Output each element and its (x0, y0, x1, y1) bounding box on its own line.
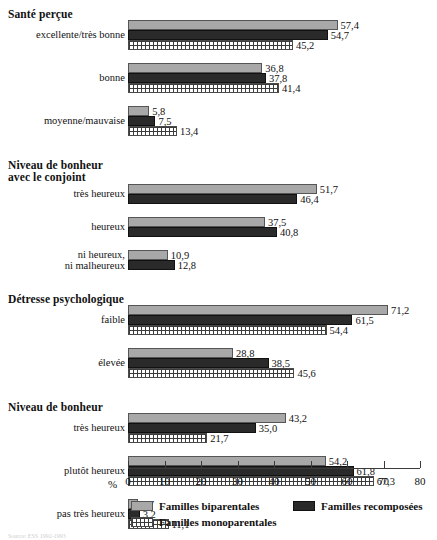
bar-value-label: 45,6 (297, 369, 315, 379)
source-note: Source: ESS 1992-1993 (8, 533, 66, 539)
bar-biparentales (128, 456, 326, 466)
bar-monoparentales (128, 83, 279, 93)
category-label: très heureux (0, 422, 125, 433)
bar-value-label: 28,8 (236, 349, 254, 359)
bar-biparentales (128, 217, 265, 227)
x-axis-tick (201, 461, 202, 468)
bar-value-label: 54,2 (329, 457, 347, 467)
x-axis-tick (347, 461, 348, 468)
x-axis-tick (420, 461, 421, 468)
legend-label: Familles monoparentales (159, 516, 276, 528)
bar-biparentales (128, 20, 338, 30)
x-axis-tick (238, 461, 239, 468)
plot-area: Santé perçueexcellente/très bonne57,454,… (0, 0, 437, 540)
category-label: pas très heureux (0, 508, 125, 519)
legend-swatch-recomposees (293, 501, 315, 511)
bar-biparentales (128, 250, 168, 260)
x-axis-tick-label: 60 (332, 475, 362, 487)
x-axis-tick (274, 461, 275, 468)
x-axis-tick-label: 30 (223, 475, 253, 487)
bar-recomposees (128, 116, 155, 126)
bar-value-label: 38,5 (272, 359, 290, 369)
bar-value-label: 37,5 (268, 218, 286, 228)
bar-biparentales (128, 305, 388, 315)
bar-value-label: 61,5 (355, 316, 373, 326)
legend-swatch-biparentales (131, 501, 153, 511)
bar-monoparentales (128, 433, 207, 443)
chart-figure: Santé perçueexcellente/très bonne57,454,… (0, 0, 437, 540)
bar-recomposees (128, 315, 352, 325)
bar-biparentales (128, 106, 149, 116)
category-label: ni heureux,ni malheureux (0, 249, 125, 271)
section-title: Santé perçue (8, 8, 73, 20)
legend-label: Familles recomposées (321, 500, 423, 512)
bar-value-label: 5,8 (152, 107, 165, 117)
category-label: bonne (0, 72, 125, 83)
legend-swatch-monoparentales (131, 517, 153, 527)
section-title: Détresse psychologique (8, 293, 124, 305)
section-title: Niveau de bonheur (8, 401, 103, 413)
bar-recomposees (128, 423, 256, 433)
x-axis-tick-label: 20 (186, 475, 216, 487)
x-axis-tick (384, 461, 385, 468)
bar-recomposees (128, 73, 266, 83)
category-label: très heureux (0, 188, 125, 199)
bar-value-label: 45,2 (296, 41, 314, 51)
x-axis-tick-label: 50 (296, 475, 326, 487)
category-label: excellente/très bonne (0, 29, 125, 40)
bar-monoparentales (128, 126, 177, 136)
bar-recomposees (128, 358, 269, 368)
bar-biparentales (128, 348, 233, 358)
bar-value-label: 35,0 (259, 424, 277, 434)
bar-biparentales (128, 63, 262, 73)
bar-value-label: 37,8 (269, 74, 287, 84)
bar-value-label: 41,4 (282, 84, 300, 94)
percent-axis-label: % (108, 478, 117, 490)
x-axis-tick (311, 461, 312, 468)
x-axis-tick-label: 10 (150, 475, 180, 487)
legend-label: Familles biparentales (159, 500, 259, 512)
x-axis-line (128, 468, 420, 469)
bar-value-label: 7,5 (158, 117, 171, 127)
bar-value-label: 13,4 (180, 127, 198, 137)
bar-monoparentales (128, 368, 294, 378)
x-axis-tick-label: 70 (369, 475, 399, 487)
category-label: heureux (0, 221, 125, 232)
x-axis-tick (128, 461, 129, 468)
bar-recomposees (128, 260, 175, 270)
category-label: plutôt heureux (0, 465, 125, 476)
x-axis-tick-label: 0 (113, 475, 143, 487)
bar-biparentales (128, 413, 286, 423)
x-axis-tick-label: 40 (259, 475, 289, 487)
bar-value-label: 71,2 (391, 306, 409, 316)
bar-monoparentales (128, 325, 327, 335)
bar-value-label: 54,7 (331, 31, 349, 41)
bar-value-label: 46,4 (300, 195, 318, 205)
bar-value-label: 21,7 (210, 434, 228, 444)
bar-value-label: 36,8 (265, 64, 283, 74)
x-axis-tick-label: 80 (405, 475, 435, 487)
bar-recomposees (128, 227, 277, 237)
bar-value-label: 12,8 (178, 261, 196, 271)
bar-value-label: 57,4 (341, 21, 359, 31)
bar-value-label: 10,9 (171, 251, 189, 261)
category-label: élevée (0, 357, 125, 368)
bar-value-label: 54,4 (330, 326, 348, 336)
bar-recomposees (128, 194, 297, 204)
bar-monoparentales (128, 40, 293, 50)
category-label: moyenne/mauvaise (0, 115, 125, 126)
section-title: Niveau de bonheur avec le conjoint (8, 159, 103, 183)
bar-biparentales (128, 184, 317, 194)
bar-value-label: 51,7 (320, 185, 338, 195)
category-label: faible (0, 314, 125, 325)
bar-value-label: 43,2 (289, 414, 307, 424)
bar-recomposees (128, 30, 328, 40)
bar-value-label: 40,8 (280, 228, 298, 238)
x-axis-tick (165, 461, 166, 468)
